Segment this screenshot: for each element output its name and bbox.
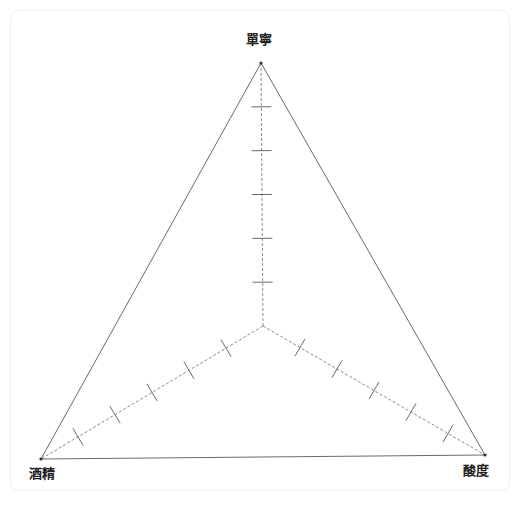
chart-ticks: [73, 107, 453, 446]
axis-label-acidity: 酸度: [463, 463, 489, 479]
vertex-dot-tannin: [259, 61, 262, 64]
chart-axes: [41, 63, 485, 459]
tick-mark: [221, 340, 231, 357]
axis-label-alcohol: 酒精: [29, 466, 55, 482]
vertex-dot-acidity: [483, 453, 486, 456]
tick-mark: [147, 384, 157, 401]
tick-mark: [369, 382, 379, 399]
tick-mark: [295, 339, 305, 356]
tick-mark: [443, 425, 453, 442]
tick-mark: [406, 403, 416, 420]
axis-label-tannin: 單寧: [246, 32, 272, 48]
tick-mark: [184, 362, 194, 379]
radar-chart: [0, 0, 526, 507]
tick-mark: [73, 428, 83, 445]
vertex-dot-alcohol: [39, 457, 42, 460]
tick-mark: [332, 360, 342, 377]
tick-mark: [110, 406, 120, 423]
vertex-dots: [39, 61, 486, 460]
chart-outline-triangle: [41, 63, 485, 459]
